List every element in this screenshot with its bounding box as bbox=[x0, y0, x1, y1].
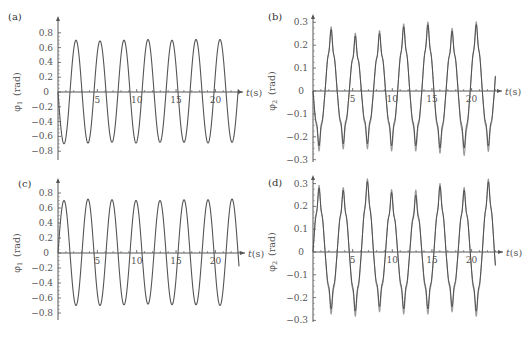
y-tick-label: 0.2 bbox=[39, 233, 53, 243]
y-tick-label: −0.1 bbox=[286, 109, 308, 119]
series-simulated bbox=[313, 179, 495, 317]
y-tick-label: 0.4 bbox=[39, 57, 54, 67]
y-axis-title: φ2 (rad) bbox=[266, 71, 279, 111]
x-tick-label: 5 bbox=[94, 95, 100, 105]
x-tick-label: 5 bbox=[350, 255, 356, 265]
y-axis-title: φ1 (rad) bbox=[11, 72, 24, 112]
y-axis-arrow-icon bbox=[56, 178, 60, 183]
y-tick-label: −0.3 bbox=[286, 315, 308, 325]
x-tick-label: 20 bbox=[210, 95, 222, 105]
series-measured bbox=[313, 25, 495, 149]
y-tick-label: 0.1 bbox=[294, 224, 308, 234]
y-tick-label: 0.3 bbox=[294, 17, 309, 27]
y-tick-label: −0.2 bbox=[286, 132, 308, 142]
y-tick-label-zero: 0 bbox=[43, 87, 49, 97]
y-axis-title: φ2 (rad) bbox=[266, 232, 279, 272]
y-tick-label: −0.2 bbox=[31, 102, 53, 112]
x-axis-title: t(s) bbox=[248, 248, 264, 259]
y-axis-arrow-icon bbox=[311, 175, 315, 180]
series-simulated bbox=[313, 22, 495, 156]
x-tick-label: 20 bbox=[466, 255, 478, 265]
y-tick-label-zero: 0 bbox=[298, 86, 304, 96]
panel-label: (d) bbox=[268, 177, 282, 188]
y-tick-label-zero: 0 bbox=[298, 247, 304, 257]
x-tick-label: 20 bbox=[210, 256, 222, 266]
y-tick-label: 0.6 bbox=[39, 43, 54, 53]
x-tick-label: 15 bbox=[426, 94, 438, 104]
panel-c-phi1: (c)0.80.60.40.20−0.2−0.4−0.6−0.85101520t… bbox=[11, 178, 264, 320]
y-tick-label: −0.6 bbox=[31, 131, 53, 141]
y-tick-label: −0.2 bbox=[31, 263, 53, 273]
y-tick-label: 0.4 bbox=[39, 218, 54, 228]
x-tick-label: 20 bbox=[466, 94, 478, 104]
y-tick-label: −0.8 bbox=[31, 146, 53, 156]
figure-canvas: (a)0.80.60.40.20−0.2−0.4−0.6−0.85101520t… bbox=[0, 0, 530, 340]
y-tick-label: 0.8 bbox=[39, 28, 54, 38]
y-tick-label: −0.4 bbox=[31, 117, 53, 127]
x-axis-title: t(s) bbox=[506, 247, 522, 258]
y-tick-label: −0.4 bbox=[31, 278, 53, 288]
x-axis-arrow-icon bbox=[498, 250, 503, 254]
x-tick-label: 15 bbox=[170, 95, 182, 105]
x-tick-label: 15 bbox=[170, 256, 182, 266]
y-axis-title: φ1 (rad) bbox=[11, 233, 24, 273]
x-axis-arrow-icon bbox=[240, 251, 245, 255]
y-tick-label: 0.6 bbox=[39, 203, 54, 213]
x-tick-label: 10 bbox=[387, 255, 399, 265]
y-tick-label: −0.8 bbox=[31, 308, 53, 318]
x-axis-title: t(s) bbox=[505, 86, 521, 97]
y-tick-label: 0.1 bbox=[294, 63, 308, 73]
x-tick-label: 5 bbox=[350, 94, 356, 104]
panel-label: (a) bbox=[8, 11, 22, 22]
y-tick-label: 0.2 bbox=[294, 201, 308, 211]
x-axis-title: t(s) bbox=[246, 87, 262, 98]
series-measured bbox=[313, 182, 495, 312]
y-tick-label: −0.3 bbox=[286, 155, 308, 165]
x-axis-arrow-icon bbox=[497, 89, 502, 93]
y-tick-label-zero: 0 bbox=[43, 248, 49, 258]
y-axis-arrow-icon bbox=[56, 16, 60, 21]
panel-d-phi2: (d)0.30.20.10−0.1−0.2−0.35101520t(s)φ2 (… bbox=[266, 175, 522, 325]
y-tick-label: −0.2 bbox=[286, 293, 308, 303]
y-tick-label: 0.2 bbox=[39, 72, 53, 82]
series-response bbox=[58, 199, 239, 305]
y-axis-arrow-icon bbox=[311, 14, 315, 19]
y-tick-label: −0.1 bbox=[286, 270, 308, 280]
panel-a-phi1: (a)0.80.60.40.20−0.2−0.4−0.6−0.85101520t… bbox=[8, 11, 262, 160]
y-tick-label: 0.8 bbox=[39, 188, 54, 198]
x-tick-label: 15 bbox=[426, 255, 438, 265]
y-tick-label: 0.2 bbox=[294, 40, 308, 50]
panel-label: (b) bbox=[268, 11, 282, 22]
x-tick-label: 10 bbox=[131, 256, 143, 266]
panel-b-phi2: (b)0.30.20.10−0.1−0.2−0.35101520t(s)φ2 (… bbox=[266, 11, 521, 165]
y-tick-label: −0.6 bbox=[31, 293, 53, 303]
y-tick-label: 0.3 bbox=[294, 179, 309, 189]
panel-label: (c) bbox=[18, 178, 32, 189]
